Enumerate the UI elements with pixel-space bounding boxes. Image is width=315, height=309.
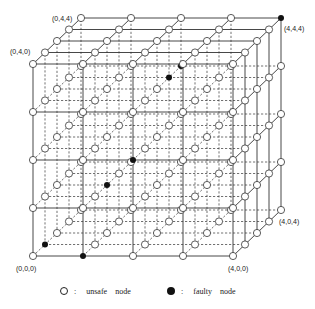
legend-faulty: : faulty node (167, 285, 243, 297)
unsafe-node-icon (91, 241, 98, 248)
unsafe-node-icon (115, 218, 122, 225)
unsafe-node-icon (29, 252, 36, 259)
unsafe-node-icon (215, 26, 222, 33)
unsafe-node-icon (191, 97, 198, 104)
unsafe-node-icon (277, 62, 284, 69)
unsafe-node-icon (41, 193, 48, 200)
unsafe-node-icon (129, 60, 136, 67)
legend-unsafe: : unsafe node (60, 285, 139, 297)
unsafe-node-icon (65, 122, 72, 129)
unsafe-node-icon (127, 14, 134, 21)
unsafe-node-icon (165, 122, 172, 129)
unsafe-node-icon (141, 97, 148, 104)
unsafe-node-icon (53, 229, 60, 236)
unsafe-node-icon (265, 122, 272, 129)
unsafe-node-icon (215, 170, 222, 177)
unsafe-node-icon (241, 193, 248, 200)
unsafe-node-icon (91, 193, 98, 200)
unsafe-node-icon (129, 108, 136, 115)
unsafe-node-icon (179, 204, 186, 211)
unsafe-node-icon (229, 204, 236, 211)
unsafe-node-icon (203, 133, 210, 140)
unsafe-node-icon (229, 108, 236, 115)
unsafe-node-icon (191, 49, 198, 56)
unsafe-node-icon (215, 74, 222, 81)
unsafe-node-icon (215, 218, 222, 225)
unsafe-node-icon (153, 133, 160, 140)
unsafe-node-icon (41, 145, 48, 152)
unsafe-node-icon (203, 229, 210, 236)
unsafe-node-icon (65, 74, 72, 81)
unsafe-node-icon (29, 60, 36, 67)
unsafe-node-icon (153, 181, 160, 188)
unsafe-node-icon (253, 229, 260, 236)
unsafe-node-icon (177, 14, 184, 21)
unsafe-node-icon (103, 133, 110, 140)
coordinate-label: (4,4,4) (284, 25, 304, 32)
unsafe-node-icon (53, 37, 60, 44)
unsafe-node-icon (29, 108, 36, 115)
unsafe-node-icon (203, 37, 210, 44)
unsafe-node-icon (65, 218, 72, 225)
unsafe-node-icon (41, 97, 48, 104)
unsafe-node-icon (253, 85, 260, 92)
unsafe-node-icon (179, 60, 186, 67)
legend-faulty-word: faulty (193, 287, 212, 296)
faulty-node-icon (167, 287, 175, 295)
unsafe-node-icon (115, 170, 122, 177)
legend-unsafe-word: unsafe (86, 287, 107, 296)
unsafe-node-icon (141, 193, 148, 200)
unsafe-node-icon (253, 37, 260, 44)
unsafe-node-icon (179, 252, 186, 259)
unsafe-node-icon (79, 156, 86, 163)
unsafe-node-icon (241, 145, 248, 152)
faulty-node-icon (42, 242, 48, 248)
unsafe-node-icon (153, 229, 160, 236)
unsafe-node-icon (203, 85, 210, 92)
unsafe-node-icon (79, 108, 86, 115)
coordinate-label: (4,0,4) (279, 218, 299, 225)
unsafe-node-icon (215, 122, 222, 129)
faulty-node-icon (130, 157, 136, 163)
unsafe-node-icon (41, 49, 48, 56)
faulty-node-icon (278, 15, 284, 21)
unsafe-node-icon (191, 145, 198, 152)
legend-node-word: node (115, 287, 131, 296)
unsafe-node-icon (241, 49, 248, 56)
unsafe-node-icon (229, 252, 236, 259)
unsafe-node-icon (91, 97, 98, 104)
unsafe-node-icon (253, 181, 260, 188)
unsafe-node-icon (91, 49, 98, 56)
unsafe-node-icon (141, 145, 148, 152)
legend-node-word: node (220, 287, 236, 296)
faulty-node-icon (166, 75, 172, 81)
unsafe-node-icon (179, 108, 186, 115)
unsafe-node-icon (191, 193, 198, 200)
unsafe-node-icon (153, 37, 160, 44)
unsafe-node-icon (265, 74, 272, 81)
unsafe-node-icon (103, 37, 110, 44)
unsafe-node-icon (191, 241, 198, 248)
coordinate-label: (4,0,0) (228, 265, 248, 272)
unsafe-node-icon (129, 204, 136, 211)
unsafe-node-icon (277, 206, 284, 213)
unsafe-node-icon (65, 170, 72, 177)
unsafe-node-icon (53, 133, 60, 140)
unsafe-node-icon (265, 170, 272, 177)
unsafe-node-icon (165, 26, 172, 33)
unsafe-node-icon (60, 287, 68, 295)
unsafe-node-icon (277, 110, 284, 117)
unsafe-node-icon (29, 204, 36, 211)
unsafe-node-icon (77, 14, 84, 21)
unsafe-node-icon (165, 218, 172, 225)
unsafe-node-icon (65, 26, 72, 33)
unsafe-node-icon (265, 26, 272, 33)
unsafe-node-icon (115, 74, 122, 81)
3d-mesh-diagram (0, 0, 315, 309)
unsafe-node-icon (79, 204, 86, 211)
legend-colon: : (74, 287, 76, 296)
unsafe-node-icon (165, 170, 172, 177)
unsafe-node-icon (253, 133, 260, 140)
unsafe-node-icon (141, 241, 148, 248)
faulty-node-icon (104, 182, 110, 188)
